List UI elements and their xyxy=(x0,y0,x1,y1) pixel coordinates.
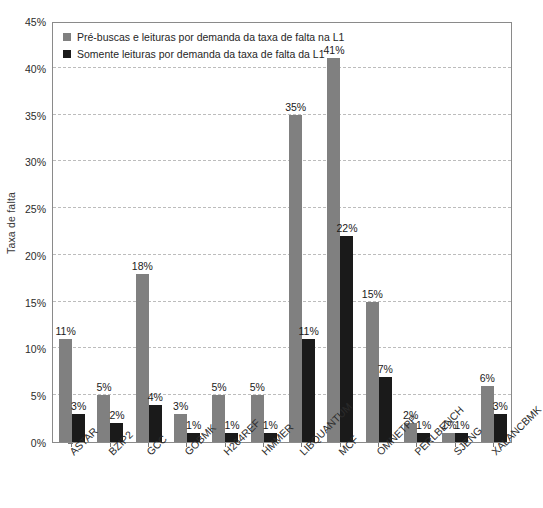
y-axis-tick-label: 10% xyxy=(25,343,46,355)
bar-value-label: 3% xyxy=(173,400,188,412)
bar-group: 2%1% xyxy=(398,23,436,442)
bar-value-label: 1% xyxy=(186,419,201,431)
bar-group: 18%4% xyxy=(130,23,168,442)
bar xyxy=(442,433,455,442)
bars-layer: 11%3%5%2%18%4%3%1%5%1%5%1%35%11%41%22%15… xyxy=(53,23,511,442)
bar-group: 5%2% xyxy=(91,23,129,442)
y-axis-tick-label: 30% xyxy=(25,156,46,168)
legend-item-label: Pré-buscas e leituras por demanda da tax… xyxy=(77,31,344,43)
y-axis-tick-label: 20% xyxy=(25,250,46,262)
y-axis-tick-label: 45% xyxy=(25,16,46,28)
bar-value-label: 5% xyxy=(96,381,111,393)
y-axis-tick-label: 35% xyxy=(25,110,46,122)
bar-value-label: 5% xyxy=(250,381,265,393)
bar-group: 3%1% xyxy=(168,23,206,442)
bar-value-label: 6% xyxy=(480,372,495,384)
bar-value-label: 1% xyxy=(263,419,278,431)
legend-swatch-demand-icon xyxy=(63,50,71,58)
bar-group: 15%7% xyxy=(360,23,398,442)
bar-value-label: 7% xyxy=(378,363,393,375)
bar xyxy=(289,115,302,442)
bar xyxy=(136,274,149,442)
bar-group: 5%1% xyxy=(206,23,244,442)
legend-item: Pré-buscas e leituras por demanda da tax… xyxy=(63,29,344,45)
bar-group: 41%22% xyxy=(321,23,359,442)
legend-item-label: Somente leituras por demanda da taxa de … xyxy=(77,48,325,60)
bar-group: 6%3% xyxy=(475,23,512,442)
bar xyxy=(302,339,315,442)
legend: Pré-buscas e leituras por demanda da tax… xyxy=(63,29,344,63)
bar-value-label: 1% xyxy=(224,419,239,431)
y-axis-ticks: 0%5%10%15%20%25%30%35%40%45% xyxy=(18,22,50,443)
legend-item: Somente leituras por demanda da taxa de … xyxy=(63,46,344,62)
bar-group: 5%1% xyxy=(245,23,283,442)
bar-value-label: 2% xyxy=(109,409,124,421)
bar-value-label: 11% xyxy=(56,325,76,337)
bar-value-label: 3% xyxy=(71,400,86,412)
bar-group: 1%1% xyxy=(436,23,474,442)
bar-value-label: 35% xyxy=(285,101,306,113)
bar-group: 11%3% xyxy=(53,23,91,442)
bar-value-label: 3% xyxy=(493,400,508,412)
x-axis-ticks: ASTARBZIP2GCCGOBMKH264REFHMMERLIBQUANTUM… xyxy=(0,444,527,508)
bar-value-label: 5% xyxy=(211,381,226,393)
bar xyxy=(59,339,72,442)
y-axis-tick-label: 15% xyxy=(25,297,46,309)
legend-swatch-prefetch-icon xyxy=(63,33,71,41)
y-axis-title-label: Taxa de falta xyxy=(5,192,17,254)
bar-value-label: 18% xyxy=(132,260,153,272)
y-axis-tick-label: 5% xyxy=(31,390,46,402)
y-axis-tick-label: 40% xyxy=(25,63,46,75)
y-axis-tick-label: 25% xyxy=(25,203,46,215)
bar-group: 35%11% xyxy=(283,23,321,442)
bar-value-label: 15% xyxy=(362,288,383,300)
bar xyxy=(327,58,340,442)
bar-value-label: 22% xyxy=(336,222,357,234)
bar-value-label: 4% xyxy=(148,391,163,403)
bar-value-label: 11% xyxy=(299,325,319,337)
plot-area: Pré-buscas e leituras por demanda da tax… xyxy=(52,22,512,443)
